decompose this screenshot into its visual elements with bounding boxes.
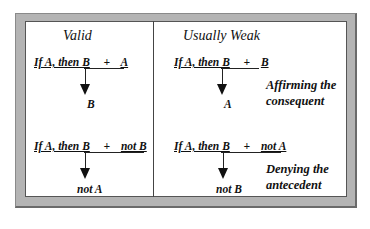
conclusion: not A <box>77 183 102 195</box>
plus-sign: + <box>104 56 111 68</box>
conditional-premise: If A, then B <box>174 56 230 68</box>
plus-sign: + <box>244 56 251 68</box>
formula-affirming-consequent: If A, then B + B <box>174 56 269 68</box>
conclusion: B <box>87 98 95 110</box>
premise-line <box>221 68 259 69</box>
conclusion: A <box>224 98 232 110</box>
formula-denying-antecedent: If A, then B + not A <box>174 140 286 152</box>
conditional-premise: If A, then B <box>174 140 230 152</box>
column-divider <box>153 21 154 197</box>
inference-arrow-shaft <box>85 68 86 85</box>
arrow-down-icon <box>217 84 227 95</box>
plus-sign: + <box>104 140 111 152</box>
inference-arrow-shaft <box>85 152 86 169</box>
arrow-down-icon <box>218 168 228 179</box>
formula-modus-ponens: If A, then B + A <box>34 56 128 68</box>
plus-sign: + <box>244 140 251 152</box>
arrow-down-icon <box>80 168 90 179</box>
premise-line <box>221 152 281 153</box>
second-premise: B <box>261 56 269 68</box>
premise-line <box>84 152 144 153</box>
inference-arrow-shaft <box>223 152 224 169</box>
conclusion: not B <box>216 183 242 195</box>
usually-weak-heading: Usually Weak <box>183 28 260 44</box>
conditional-premise: If A, then B <box>34 140 90 152</box>
second-premise: A <box>120 56 128 68</box>
inference-arrow-shaft <box>222 68 223 85</box>
fallacy-label-denying: Denying the antecedent <box>266 161 329 193</box>
conditional-premise: If A, then B <box>34 56 90 68</box>
formula-modus-tollens: If A, then B + not B <box>34 140 147 152</box>
arrow-down-icon <box>80 84 90 95</box>
valid-heading: Valid <box>63 28 92 44</box>
second-premise: not A <box>261 140 286 152</box>
fallacy-label-affirming: Affirming the consequent <box>266 77 336 109</box>
second-premise: not B <box>121 140 147 152</box>
premise-line <box>84 68 124 69</box>
